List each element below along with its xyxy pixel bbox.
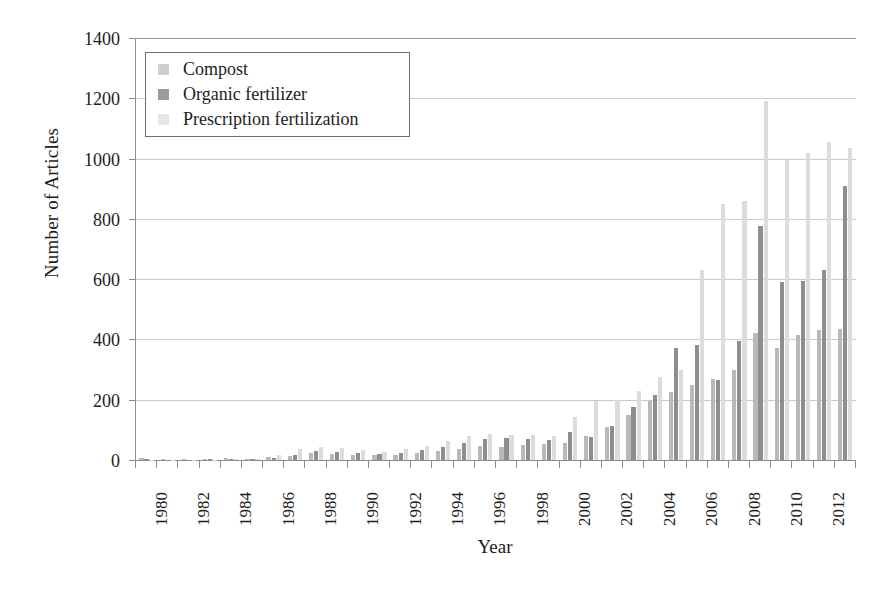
chart-legend: CompostOrganic fertilizerPrescription fe…	[145, 52, 410, 137]
bar	[817, 330, 821, 460]
bar	[721, 204, 725, 460]
bar	[737, 341, 741, 460]
bar	[483, 439, 487, 460]
y-axis-tick-label: 1200	[84, 89, 120, 110]
bar-group-2013	[835, 38, 856, 460]
legend-item-label: Prescription fertilization	[183, 109, 358, 130]
bar	[277, 455, 281, 460]
bar	[309, 453, 313, 460]
bar	[838, 329, 842, 460]
x-axis-tick	[834, 461, 835, 468]
x-axis-tick-label: 1984	[236, 492, 256, 526]
x-axis-tick	[389, 461, 390, 468]
bar	[822, 270, 826, 460]
bar	[753, 333, 757, 460]
x-axis-tick-label: 2004	[660, 492, 680, 526]
bar	[732, 370, 736, 460]
x-axis-tick	[686, 461, 687, 468]
bar	[272, 458, 276, 460]
bar	[637, 391, 641, 460]
bar	[351, 455, 355, 460]
bar	[182, 459, 186, 460]
bar-group-2005	[665, 38, 686, 460]
x-axis-tick	[431, 461, 432, 468]
bar	[521, 445, 525, 460]
bar	[626, 415, 630, 460]
bar	[224, 458, 228, 460]
y-axis-tick: 600	[129, 279, 136, 280]
y-axis-tick-label: 0	[111, 451, 120, 472]
bar-group-2001	[581, 38, 602, 460]
bar	[382, 452, 386, 460]
bar	[250, 459, 254, 460]
bar	[372, 455, 376, 460]
bar	[229, 459, 233, 460]
bar-group-1993	[411, 38, 432, 460]
bar	[404, 449, 408, 460]
bar	[584, 436, 588, 460]
bar	[441, 447, 445, 460]
x-axis-tick	[199, 461, 200, 468]
x-axis-tick	[728, 461, 729, 468]
bar	[255, 459, 259, 460]
bar	[758, 226, 762, 460]
x-axis-tick	[707, 461, 708, 468]
bar-group-2003	[623, 38, 644, 460]
legend-item: Organic fertilizer	[146, 82, 409, 107]
bar-chart-figure: Number of Articles 020040060080010001200…	[0, 0, 886, 593]
bar	[139, 458, 143, 460]
bar	[356, 453, 360, 460]
x-axis-tick-label: 1988	[321, 492, 341, 526]
x-axis-ticks	[135, 461, 855, 469]
bar-group-1997	[496, 38, 517, 460]
x-axis-tick-label: 1992	[406, 492, 426, 526]
bar	[234, 459, 238, 460]
bar	[615, 400, 619, 460]
bar	[552, 436, 556, 460]
x-axis-tick-label: 1982	[194, 492, 214, 526]
bar	[542, 444, 546, 460]
bar	[563, 443, 567, 460]
x-axis-tick	[368, 461, 369, 468]
bar-group-2011	[792, 38, 813, 460]
bar-group-1995	[454, 38, 475, 460]
bar	[425, 446, 429, 460]
bar-group-2006	[686, 38, 707, 460]
legend-item: Prescription fertilization	[146, 107, 409, 132]
bar	[420, 450, 424, 460]
x-axis-tick	[516, 461, 517, 468]
bar	[653, 395, 657, 460]
y-axis-tick-label: 600	[93, 270, 120, 291]
bar	[843, 186, 847, 460]
bar	[589, 437, 593, 461]
bar-group-2009	[750, 38, 771, 460]
x-axis-labels: 1980198219841986198819901992199419961998…	[135, 470, 855, 532]
bar	[161, 459, 165, 460]
y-axis-tick-label: 1400	[84, 29, 120, 50]
bar	[658, 377, 662, 460]
x-axis-tick	[601, 461, 602, 468]
legend-swatch-prescription-fertilization	[158, 114, 169, 125]
x-axis-tick	[453, 461, 454, 468]
bar	[208, 459, 212, 460]
bar	[340, 448, 344, 460]
bar	[605, 427, 609, 460]
y-axis-tick: 1000	[129, 159, 136, 160]
x-axis-tick	[304, 461, 305, 468]
x-axis-tick-label: 1990	[363, 492, 383, 526]
bar-group-2007	[708, 38, 729, 460]
x-axis-tick-label: 2006	[702, 492, 722, 526]
x-axis-tick	[495, 461, 496, 468]
legend-swatch-organic-fertilizer	[158, 89, 169, 100]
bar	[488, 434, 492, 460]
bar-group-1998	[517, 38, 538, 460]
bar	[436, 451, 440, 460]
bar	[499, 447, 503, 460]
bar	[293, 455, 297, 460]
bar	[742, 201, 746, 460]
bar	[245, 459, 249, 461]
x-axis-tick	[559, 461, 560, 468]
x-axis-tick	[262, 461, 263, 468]
y-axis-tick: 200	[129, 400, 136, 401]
x-axis-tick	[580, 461, 581, 468]
